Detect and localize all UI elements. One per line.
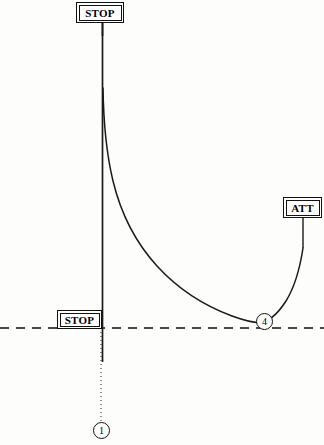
label-stop-axis-text: STOP <box>60 313 100 327</box>
marker-circle-one[interactable]: 1 <box>93 422 110 439</box>
label-stop-top-text: STOP <box>79 5 122 21</box>
plot-drawing <box>0 0 324 445</box>
marker-circle-four[interactable]: 4 <box>256 313 273 330</box>
label-stop-top[interactable]: STOP <box>76 2 124 23</box>
decay-curve-path <box>103 88 303 323</box>
label-att[interactable]: ATT <box>283 197 322 218</box>
label-att-text: ATT <box>286 200 320 216</box>
figure-canvas: STOP STOP ATT 4 1 <box>0 0 324 445</box>
label-stop-axis[interactable]: STOP <box>57 310 102 329</box>
